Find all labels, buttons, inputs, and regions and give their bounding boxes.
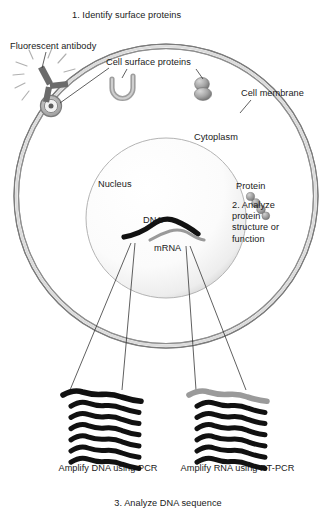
diagram-graphics <box>0 0 332 523</box>
fluorescent-antibody-label: Fluorescent antibody <box>10 41 96 52</box>
protein-label: Protein <box>236 181 265 192</box>
mrna-label: mRNA <box>154 243 181 254</box>
step-1-title: 1. Identify surface proteins <box>72 10 181 21</box>
receptor-protein <box>194 77 211 100</box>
step-2-text: 2. Analyze protein structure or function <box>232 200 292 245</box>
cell-analysis-diagram: 1. Identify surface proteins Fluorescent… <box>0 0 332 523</box>
nucleus-label: Nucleus <box>98 179 132 190</box>
dna-label: DNA <box>143 215 163 226</box>
cell-membrane-label: Cell membrane <box>241 88 304 99</box>
dna-gel-caption: Amplify DNA using PCR <box>54 463 162 474</box>
channel-protein <box>112 76 133 99</box>
step-3-title: 3. Analyze DNA sequence <box>83 498 253 509</box>
rna-gel-caption: Amplify RNA using RT-PCR <box>180 463 295 474</box>
cytoplasm-label: Cytoplasm <box>194 132 238 143</box>
cell-surface-proteins-label: Cell surface proteins <box>106 57 191 68</box>
